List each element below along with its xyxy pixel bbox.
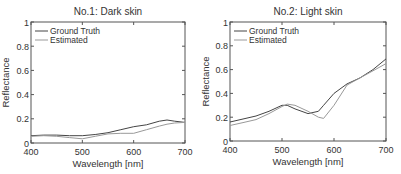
- series-line: [31, 122, 185, 138]
- y-tick-label: 1: [223, 18, 228, 28]
- y-axis-label: Reflectance: [200, 56, 211, 106]
- x-tick-label: 400: [23, 147, 38, 157]
- x-tick-label: 700: [378, 145, 393, 155]
- y-tick-label: 0.6: [16, 66, 29, 76]
- chart-title: No.1: Dark skin: [74, 6, 142, 17]
- y-tick-label: 0.8: [16, 42, 29, 52]
- chart-light-skin: No.2: Light skin00.20.40.60.814005006007…: [200, 0, 401, 174]
- x-tick-label: 500: [274, 145, 289, 155]
- series-line: [230, 59, 386, 122]
- x-tick-label: 400: [222, 145, 237, 155]
- chart-title: No.2: Light skin: [274, 6, 343, 17]
- x-axis-label: Wavelength [nm]: [273, 156, 344, 167]
- legend-label: Estimated: [249, 35, 287, 45]
- y-tick-label: 0.4: [215, 89, 228, 99]
- y-tick-label: 1: [24, 18, 29, 28]
- x-axis-label: Wavelength [nm]: [73, 158, 144, 169]
- y-tick-label: 0.2: [215, 113, 228, 123]
- x-tick-label: 600: [126, 147, 141, 157]
- legend-label: Estimated: [50, 35, 88, 45]
- y-tick-label: 0.2: [16, 114, 29, 124]
- x-tick-label: 500: [75, 147, 90, 157]
- series-line: [31, 120, 185, 136]
- y-tick-label: 0.8: [215, 41, 228, 51]
- x-tick-label: 600: [326, 145, 341, 155]
- y-axis-label: Reflectance: [0, 57, 11, 107]
- y-tick-label: 0.6: [215, 65, 228, 75]
- x-tick-label: 700: [177, 147, 192, 157]
- y-tick-label: 0.4: [16, 90, 29, 100]
- chart-dark-skin: No.1: Dark skin00.20.40.60.8140050060070…: [0, 0, 200, 174]
